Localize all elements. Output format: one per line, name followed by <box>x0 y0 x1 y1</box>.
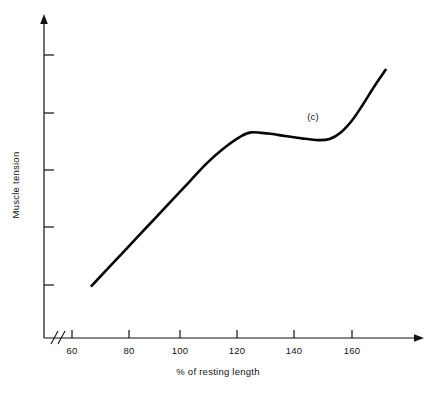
x-tick-label-100: 100 <box>172 345 188 356</box>
y-axis-arrow-icon <box>40 14 48 24</box>
x-tick-label-60: 60 <box>67 345 78 356</box>
x-tick-label-160: 160 <box>344 345 360 356</box>
chart-plot-area <box>0 0 436 401</box>
y-axis-title: Muscle tension <box>10 152 21 219</box>
x-tick-label-80: 80 <box>124 345 135 356</box>
x-axis-title: % of resting length <box>176 366 259 377</box>
chart-figure: 60 80 100 120 140 160 % of resting lengt… <box>0 0 436 401</box>
x-tick-label-120: 120 <box>229 345 245 356</box>
x-axis-arrow-icon <box>414 334 424 342</box>
x-tick-label-140: 140 <box>286 345 302 356</box>
muscle-tension-curve <box>92 70 386 286</box>
curve-annotation-c: (c) <box>307 111 319 122</box>
